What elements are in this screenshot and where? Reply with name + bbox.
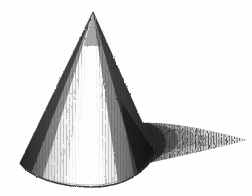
sketch-canvas: Pencil drawing of a cone lit from the le… (0, 0, 252, 196)
paper-grain (0, 0, 252, 196)
cone-drawing (0, 0, 252, 196)
